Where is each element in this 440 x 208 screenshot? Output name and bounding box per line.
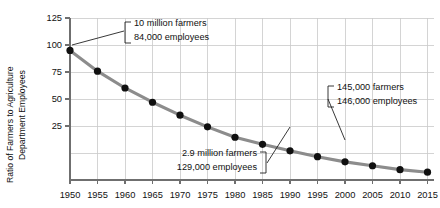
x-tick-label-2015: 2015 [417, 190, 438, 200]
data-point-2015 [424, 169, 431, 176]
data-point-2000 [341, 158, 348, 165]
data-point-1965 [149, 99, 156, 106]
x-tick-label-2000: 2000 [335, 190, 356, 200]
y-tick-label-75: 75 [52, 67, 62, 77]
x-tick-label-2010: 2010 [390, 190, 411, 200]
x-tick-label-1960: 1960 [115, 190, 136, 200]
annotation-1950: 10 million farmers 84,000 employees [72, 18, 209, 45]
data-point-1975 [204, 123, 211, 130]
y-tick-label-25: 25 [52, 121, 62, 131]
annotation-1950-line1: 10 million farmers [134, 18, 207, 28]
x-tick-label-2005: 2005 [362, 190, 383, 200]
annotation-2000-line2: 146,000 employees [337, 96, 418, 106]
data-point-1980 [231, 134, 238, 141]
data-point-2005 [369, 162, 376, 169]
data-point-1990 [286, 147, 293, 154]
data-point-1955 [94, 68, 101, 75]
y-axis-title-line1: Ratio of Farmers to Agriculture [5, 66, 15, 183]
x-tick-label-1955: 1955 [87, 190, 108, 200]
y-tick-labels: 125 100 75 50 25 [46, 13, 62, 131]
x-tick-label-1980: 1980 [225, 190, 246, 200]
x-tick-label-1995: 1995 [307, 190, 328, 200]
y-tick-label-125: 125 [46, 13, 62, 23]
y-axis-title: Ratio of Farmers to Agriculture Departme… [5, 66, 27, 183]
data-point-1950 [66, 47, 73, 54]
annotation-1950-bracket [125, 22, 131, 43]
annotation-1980-line2: 129,000 employees [177, 162, 258, 172]
annotation-1980-line1: 2.9 million farmers [182, 148, 257, 158]
chart-figure: Ratio of Farmers to Agriculture Departme… [0, 0, 440, 208]
annotation-1950-leader [72, 31, 124, 45]
line-chart-svg: Ratio of Farmers to Agriculture Departme… [0, 0, 440, 208]
data-point-2010 [396, 166, 403, 173]
y-tick-label-50: 50 [52, 94, 62, 104]
y-tick-label-100: 100 [46, 40, 62, 50]
x-tick-label-1970: 1970 [170, 190, 191, 200]
x-tick-labels: 1950 1955 1960 1965 1970 1975 1980 1985 … [60, 190, 438, 200]
x-tick-label-1985: 1985 [252, 190, 273, 200]
x-axis-ticks [70, 180, 428, 184]
x-tick-label-1990: 1990 [280, 190, 301, 200]
y-axis-ticks [65, 18, 70, 126]
data-point-1970 [176, 112, 183, 119]
annotation-1950-line2: 84,000 employees [134, 32, 209, 42]
data-point-1960 [121, 84, 128, 91]
annotation-1980-bracket [260, 152, 266, 173]
x-tick-label-1965: 1965 [142, 190, 163, 200]
annotation-2000-line1: 145,000 farmers [337, 82, 404, 92]
data-point-1985 [259, 141, 266, 148]
annotation-1980: 2.9 million farmers 129,000 employees [177, 127, 290, 173]
data-point-1995 [314, 153, 321, 160]
y-axis-title-line2: Department Employees [17, 70, 27, 160]
x-tick-label-1950: 1950 [60, 190, 81, 200]
annotation-2000-bracket [328, 86, 334, 107]
x-tick-label-1975: 1975 [197, 190, 218, 200]
